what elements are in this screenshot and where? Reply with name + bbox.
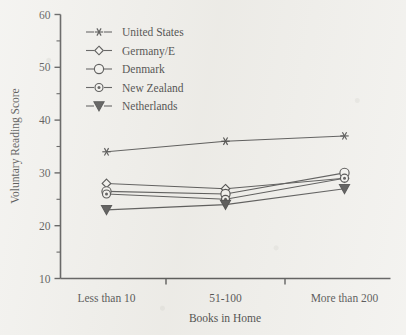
legend-item-new-zealand: New Zealand bbox=[86, 82, 184, 94]
marker-dotted-circle bbox=[95, 84, 103, 92]
y-tick-label: 20 bbox=[39, 220, 51, 232]
legend-item-germany-e: Germany/E bbox=[86, 45, 175, 58]
chart-figure: 102030405060 Less than 1051-100More than… bbox=[0, 0, 406, 335]
plot-axes bbox=[61, 15, 391, 279]
marker-dotted-circle bbox=[341, 174, 349, 182]
x-tick-label: Less than 10 bbox=[77, 292, 135, 304]
y-axis-tick-labels: 102030405060 bbox=[39, 9, 51, 285]
line-chart-canvas: 102030405060 Less than 1051-100More than… bbox=[0, 0, 406, 335]
legend-label: New Zealand bbox=[122, 82, 184, 94]
y-tick-label: 60 bbox=[39, 9, 51, 21]
y-tick-label: 30 bbox=[39, 167, 51, 179]
marker-asterisk bbox=[340, 132, 348, 139]
y-tick-label: 50 bbox=[39, 61, 51, 73]
x-tick-label: 51-100 bbox=[209, 292, 242, 304]
marker-asterisk bbox=[102, 148, 110, 155]
x-tick-label: More than 200 bbox=[311, 292, 379, 304]
legend-item-denmark: Denmark bbox=[86, 63, 165, 75]
marker-filled-triangle-down bbox=[94, 102, 104, 111]
y-axis-ticks bbox=[55, 15, 61, 279]
legend-item-united-states: United States bbox=[86, 26, 184, 38]
marker-open-circle bbox=[94, 64, 103, 73]
x-axis-ticks bbox=[166, 279, 285, 285]
data-series-layer bbox=[102, 132, 350, 214]
x-axis-tick-labels: Less than 1051-100More than 200 bbox=[77, 292, 378, 304]
legend-label: United States bbox=[122, 26, 184, 38]
y-tick-label: 40 bbox=[39, 114, 51, 126]
series-united-states bbox=[102, 132, 348, 155]
legend-label: Netherlands bbox=[122, 100, 178, 112]
chart-legend: United StatesGermany/EDenmarkNew Zealand… bbox=[86, 26, 184, 112]
marker-open-diamond bbox=[95, 46, 104, 55]
marker-asterisk bbox=[95, 28, 103, 35]
marker-asterisk bbox=[221, 138, 229, 145]
y-tick-label: 10 bbox=[39, 273, 51, 285]
y-axis-title: Voluntary Reading Score bbox=[9, 88, 22, 203]
legend-label: Denmark bbox=[122, 63, 165, 75]
legend-item-netherlands: Netherlands bbox=[86, 100, 178, 112]
marker-dotted-circle bbox=[103, 190, 111, 198]
legend-label: Germany/E bbox=[122, 45, 175, 58]
x-axis-title: Books in Home bbox=[189, 312, 261, 324]
